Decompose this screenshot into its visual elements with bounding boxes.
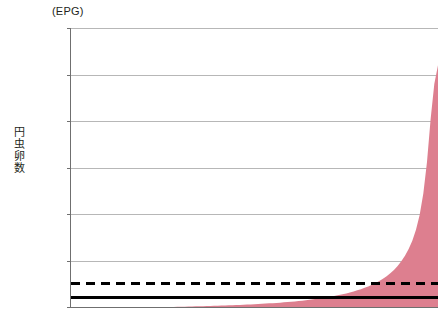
reference-line-dashed-threshold bbox=[71, 282, 438, 285]
reference-line-solid-threshold bbox=[71, 296, 438, 299]
chart-container: (EPG) 円虫卵数 6,0005,0004,0003,0002,0001,00… bbox=[0, 0, 448, 320]
y-axis-unit-caption: (EPG) bbox=[52, 5, 84, 17]
series-area-0 bbox=[71, 65, 438, 307]
series-area-chart bbox=[71, 28, 438, 307]
gridline-0 bbox=[71, 307, 438, 308]
y-axis-title: 円虫卵数 bbox=[8, 126, 24, 174]
y-tick-mark-0 bbox=[67, 307, 71, 308]
plot-area: 6,0005,0004,0003,0002,0001,0000 bbox=[70, 28, 438, 307]
